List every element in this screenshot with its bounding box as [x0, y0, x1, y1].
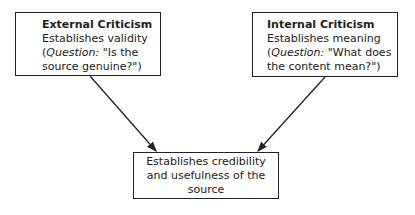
internal-criticism-box: Internal Criticism Establishes meaning (…: [252, 12, 398, 77]
internal-criticism-question-cont: the content mean?"): [267, 60, 391, 74]
external-criticism-question-cont: source genuine?"): [42, 60, 152, 74]
credibility-box: Establishes credibility and usefulness o…: [133, 152, 279, 199]
credibility-line-1: Establishes credibility: [134, 155, 278, 169]
external-criticism-box: External Criticism Establishes validity …: [15, 12, 161, 76]
external-criticism-title: External Criticism: [42, 18, 152, 32]
credibility-line-2: and usefulness of the: [134, 169, 278, 183]
arrow-right-to-bottom: [258, 77, 325, 151]
credibility-line-3: source: [134, 183, 278, 197]
arrow-left-to-bottom: [90, 76, 156, 151]
internal-criticism-desc: Establishes meaning: [267, 32, 391, 46]
external-criticism-desc: Establishes validity: [42, 32, 152, 46]
internal-criticism-title: Internal Criticism: [267, 18, 391, 32]
internal-criticism-question: (Question: "What does: [267, 46, 391, 60]
external-criticism-question: (Question: "Is the: [42, 46, 152, 60]
